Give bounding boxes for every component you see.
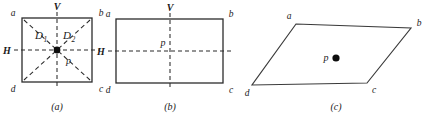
panel-a-vertex-label-d: d — [11, 84, 16, 94]
panel-b-axis-label-h: H — [96, 46, 106, 57]
panel-b-vertex-label-a: a — [106, 9, 111, 19]
panel-c-vertex-label-d: d — [245, 88, 250, 98]
panel-c-caption: (c) — [330, 101, 342, 113]
panel-a-vertex-label-a: a — [11, 8, 16, 18]
panel-b: a b c d V H p (b) — [96, 2, 234, 113]
figure-canvas: a b c d V H D 1 D 2 p (a) — [0, 0, 436, 117]
panel-a-vertex-label-b: b — [99, 8, 104, 18]
panel-c-face — [252, 24, 411, 85]
panel-a: a b c d V H D 1 D 2 p (a) — [2, 1, 104, 113]
panel-a-diagonal-label-d2-subscript: 2 — [72, 35, 76, 44]
panel-a-diagonal-label-d1-letter: D — [34, 29, 43, 41]
panel-a-axis-label-h: H — [2, 45, 12, 56]
panel-a-point-label-p: p — [65, 55, 71, 66]
panel-a-axis-label-v: V — [54, 1, 62, 12]
panel-c: p a b c d (c) — [245, 11, 422, 113]
panel-a-vertex-label-c: c — [99, 84, 104, 94]
panel-c-point-p-dot — [332, 54, 339, 61]
panel-c-vertex-label-c: c — [372, 85, 377, 95]
panel-b-point-label-p: p — [160, 37, 166, 48]
figure-container: a b c d V H D 1 D 2 p (a) — [0, 0, 436, 117]
panel-c-point-label-p: p — [323, 52, 329, 63]
panel-c-vertex-label-a: a — [287, 11, 292, 21]
panel-b-vertex-label-d: d — [106, 85, 111, 95]
panel-a-diagonal-label-d1-subscript: 1 — [44, 35, 48, 44]
panel-b-caption: (b) — [164, 101, 176, 113]
panel-a-diagonal-label-d2-letter: D — [62, 29, 71, 41]
panel-b-axis-label-v: V — [167, 2, 175, 13]
panel-b-vertex-label-b: b — [229, 9, 234, 19]
panel-b-vertex-label-c: c — [229, 85, 234, 95]
panel-a-caption: (a) — [51, 101, 63, 113]
panel-c-vertex-label-b: b — [417, 18, 422, 28]
panel-a-point-p-dot — [54, 47, 61, 54]
